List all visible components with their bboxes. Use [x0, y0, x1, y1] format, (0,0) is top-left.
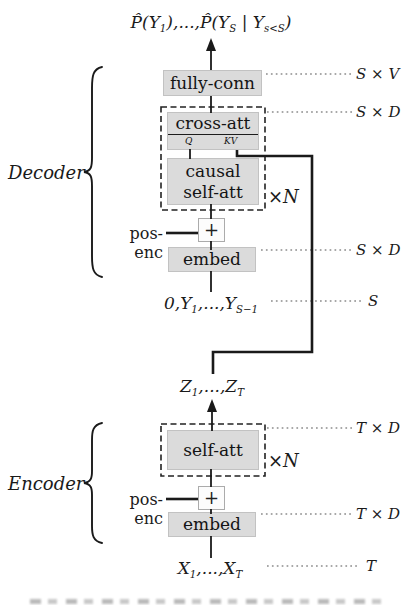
- formula-seg: ),...,P̂(Y: [166, 12, 229, 32]
- fully-conn-label: fully-conn: [170, 73, 255, 93]
- causal-self-att-label-line2: self-att: [168, 182, 258, 203]
- output-distribution-formula: P̂(Y1),...,P̂(YS | Ys<S): [61, 12, 361, 34]
- plus-sign: +: [204, 219, 219, 240]
- encoder-self-att-label: self-att: [183, 440, 242, 460]
- cross-att-label: cross-att: [168, 113, 258, 134]
- dim-encoder-input-len: T: [366, 557, 376, 575]
- dim-decoder-block-out: S × D: [356, 103, 400, 121]
- encoder-section-label: Encoder: [8, 473, 80, 494]
- decoder-input-formula: 0,Y1,...,YS−1: [61, 293, 361, 315]
- decoder-repeat-label: ×N: [268, 186, 299, 207]
- formula-sub: T: [235, 569, 242, 580]
- encoder-embed-label: embed: [183, 514, 241, 534]
- formula-seg: ,...,Z: [198, 376, 237, 396]
- dim-encoder-block-out: T × D: [356, 419, 400, 437]
- decoder-embed-box: embed: [168, 247, 256, 272]
- dim-decoder-embed-out: S × D: [356, 241, 400, 259]
- encoder-pos-enc-label: pos-enc: [103, 490, 163, 528]
- arrow-latent-head: [207, 399, 217, 412]
- formula-seg: | Y: [236, 12, 264, 32]
- cross-att-box: cross-att Q KV: [167, 112, 259, 150]
- encoder-input-formula: X1,...,XT: [60, 558, 360, 580]
- formula-seg: 0,Y: [164, 293, 191, 313]
- causal-self-att-label-line1: causal: [168, 161, 258, 182]
- decoder-brace: [84, 67, 102, 277]
- dim-decoder-input-len: S: [368, 292, 378, 310]
- key-value-port-label: KV: [224, 136, 237, 146]
- decoder-plus-node: +: [198, 218, 225, 242]
- latent-sequence-formula: Z1,...,ZT: [62, 376, 362, 398]
- formula-seg: X: [178, 558, 190, 578]
- formula-seg: ,...,X: [196, 558, 235, 578]
- encoder-brace: [84, 423, 102, 543]
- decoder-section-label: Decoder: [8, 162, 80, 183]
- cropped-caption-top-edge: [30, 599, 386, 604]
- dim-encoder-embed-out: T × D: [356, 505, 400, 523]
- formula-seg: Z: [180, 376, 192, 396]
- encoder-repeat-label: ×N: [268, 450, 299, 471]
- plus-sign: +: [204, 487, 219, 508]
- fully-conn-box: fully-conn: [163, 70, 262, 96]
- dim-fully-conn-out: S × V: [356, 65, 399, 83]
- formula-sub: s<S: [264, 23, 285, 34]
- formula-seg: ): [285, 12, 292, 32]
- decoder-embed-label: embed: [183, 249, 241, 269]
- formula-sub: T: [237, 387, 244, 398]
- formula-seg: P̂(Y: [131, 12, 160, 32]
- query-port-label: Q: [185, 136, 192, 146]
- encoder-embed-box: embed: [168, 512, 256, 537]
- encoder-self-att-box: self-att: [167, 430, 259, 470]
- formula-sub: S−1: [236, 304, 258, 315]
- encoder-plus-node: +: [198, 486, 225, 510]
- decoder-pos-enc-label: pos-enc: [103, 224, 163, 262]
- arrow-output-head: [206, 38, 216, 51]
- causal-self-att-box: causal self-att: [167, 158, 259, 205]
- cross-att-io-strip: Q KV: [168, 134, 258, 148]
- formula-seg: ,...,Y: [198, 293, 236, 313]
- figure-canvas: P̂(Y1),...,P̂(YS | Ys<S) Decoder fully-c…: [0, 0, 417, 605]
